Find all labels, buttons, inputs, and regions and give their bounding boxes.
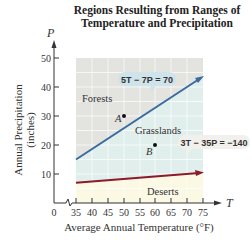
x-axis-var: T xyxy=(226,196,234,210)
x-tick-labels: 0 35 40 45 50 55 60 65 70 75 xyxy=(52,207,209,218)
svg-text:20: 20 xyxy=(41,140,51,151)
y-axis-title: Annual Precipitation (inches) xyxy=(12,84,37,176)
svg-text:30: 30 xyxy=(41,111,51,122)
svg-text:65: 65 xyxy=(166,207,176,218)
point-b-label: B xyxy=(146,146,153,157)
svg-text:45: 45 xyxy=(103,207,113,218)
point-a-label: A xyxy=(114,113,122,124)
chart-svg: P T 50 40 30 20 10 0 35 40 45 50 55 60 6… xyxy=(0,0,252,244)
y-axis-var: P xyxy=(46,26,55,40)
deserts-label: Deserts xyxy=(147,186,179,197)
svg-text:(inches): (inches) xyxy=(24,112,37,148)
svg-text:0: 0 xyxy=(52,207,57,218)
svg-text:Annual Precipitation: Annual Precipitation xyxy=(12,84,24,176)
svg-text:40: 40 xyxy=(87,207,97,218)
svg-text:75: 75 xyxy=(198,207,208,218)
svg-text:40: 40 xyxy=(41,82,51,93)
svg-text:50: 50 xyxy=(119,207,129,218)
svg-text:70: 70 xyxy=(182,207,192,218)
point-b xyxy=(153,143,157,147)
y-tick-labels: 50 40 30 20 10 xyxy=(41,53,51,180)
svg-text:35: 35 xyxy=(71,207,81,218)
svg-text:3T − 35P = −140: 3T − 35P = −140 xyxy=(180,138,247,148)
grasslands-label: Grasslands xyxy=(135,125,181,136)
x-axis-title: Average Annual Temperature (°F) xyxy=(64,221,214,234)
svg-text:60: 60 xyxy=(150,207,160,218)
svg-text:50: 50 xyxy=(41,53,51,64)
point-a xyxy=(122,114,126,118)
svg-text:10: 10 xyxy=(41,169,51,180)
forests-label: Forests xyxy=(82,93,112,104)
svg-text:55: 55 xyxy=(135,207,145,218)
svg-text:5T − 7P = 70: 5T − 7P = 70 xyxy=(121,75,173,85)
